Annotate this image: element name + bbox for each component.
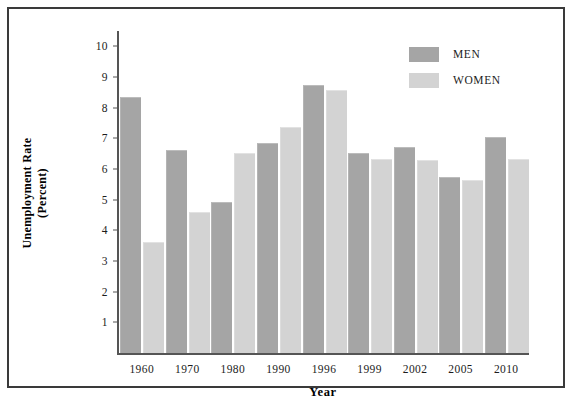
y-tick-mark	[113, 46, 117, 47]
bar-women-1996	[326, 90, 347, 353]
x-tick-label: 2005	[448, 363, 473, 375]
bar-group	[166, 31, 209, 353]
bar-men-1999	[348, 153, 369, 353]
bar-women-1990	[280, 127, 301, 353]
x-axis-line	[117, 353, 529, 355]
figure-border: 12345678910 1960197019801990199619992002…	[7, 7, 565, 388]
x-tick-label: 1960	[129, 363, 154, 375]
y-axis-title: Unemployment Rate (Percent)	[20, 83, 50, 303]
bar-men-1960	[120, 97, 141, 353]
y-axis-title-line2: (Percent)	[35, 168, 49, 218]
bar-women-1960	[143, 242, 164, 353]
chart-legend: MEN WOMEN	[409, 43, 501, 95]
bar-women-1970	[189, 212, 210, 353]
y-tick-mark	[113, 199, 117, 200]
y-tick-mark	[113, 138, 117, 139]
bar-women-2002	[417, 160, 438, 353]
bar-men-1990	[257, 143, 278, 353]
legend-label-women: WOMEN	[453, 74, 501, 86]
y-tick-mark	[113, 77, 117, 78]
bar-group	[211, 31, 254, 353]
bar-women-1980	[234, 153, 255, 353]
x-axis-title: Year	[117, 385, 529, 399]
chart-figure: 12345678910 1960197019801990199619992002…	[0, 0, 573, 399]
bar-group	[303, 31, 346, 353]
x-tick-label: 1996	[312, 363, 337, 375]
legend-swatch-men-icon	[409, 47, 439, 62]
y-tick-mark	[113, 322, 117, 323]
bar-group	[348, 31, 391, 353]
y-tick-mark	[113, 169, 117, 170]
bar-women-2005	[462, 180, 483, 353]
bar-men-1996	[303, 85, 324, 353]
x-tick-label: 2010	[494, 363, 519, 375]
x-tick-label: 1990	[266, 363, 291, 375]
y-tick-mark	[113, 291, 117, 292]
y-axis-title-line1: Unemployment Rate	[20, 138, 34, 249]
x-tick-label: 1999	[357, 363, 382, 375]
bar-men-2005	[439, 177, 460, 353]
legend-item-men: MEN	[409, 43, 501, 65]
bar-men-2010	[485, 137, 506, 353]
bar-men-1970	[166, 150, 187, 353]
y-tick-mark	[113, 230, 117, 231]
bar-group	[120, 31, 163, 353]
y-tick-mark	[113, 107, 117, 108]
x-tick-label: 1970	[175, 363, 200, 375]
legend-item-women: WOMEN	[409, 69, 501, 91]
legend-swatch-women-icon	[409, 73, 439, 88]
bar-men-2002	[394, 147, 415, 353]
bar-men-1980	[211, 202, 232, 353]
legend-label-men: MEN	[453, 48, 480, 60]
y-tick-mark	[113, 261, 117, 262]
plot-area: 12345678910 1960197019801990199619992002…	[117, 31, 529, 355]
bar-women-1999	[371, 159, 392, 353]
bar-group	[257, 31, 300, 353]
bar-women-2010	[508, 159, 529, 353]
x-tick-label: 1980	[221, 363, 246, 375]
x-tick-label: 2002	[403, 363, 428, 375]
